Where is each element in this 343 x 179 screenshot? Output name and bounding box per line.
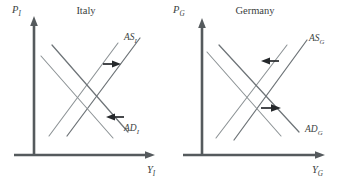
panel-italy-y-axis-label-sub: I xyxy=(17,10,21,18)
panel-italy-y-axis-label: PI xyxy=(11,4,21,18)
panel-germany-x-axis-arrowhead xyxy=(315,151,325,159)
panel-germany-title: Germany xyxy=(235,5,275,16)
panel-italy-x-axis-arrowhead xyxy=(145,151,155,159)
panel-germany-as-curve-original xyxy=(234,40,307,140)
panel-germany-y-axis-arrowhead xyxy=(198,18,206,28)
panel-italy-as-label-main: AS xyxy=(123,32,135,42)
panel-germany-as-label: ASG xyxy=(308,33,325,45)
panel-germany-y-axis-label-sub: G xyxy=(179,10,185,18)
panel-italy-ad-curve-shifted xyxy=(41,56,113,138)
panel-italy-ad-label-sub: I xyxy=(136,128,140,135)
panel-germany-as-label-main: AS xyxy=(308,33,320,43)
panel-germany: Germany PG YG ASG xyxy=(171,0,343,179)
panel-germany-ad-label-sub: G xyxy=(318,129,323,136)
panel-italy-x-axis-label: YI xyxy=(147,164,156,178)
panel-italy-ad-label-main: AD xyxy=(123,123,137,133)
panel-italy-x-axis-label-sub: I xyxy=(152,170,156,178)
panel-italy-as-curve-shifted xyxy=(67,38,140,136)
panel-italy: Italy PI YI ASI xyxy=(0,0,172,179)
panel-germany-ad-label-main: AD xyxy=(304,124,318,134)
panel-germany-ad-shift-arrow xyxy=(261,104,281,111)
panel-italy-ad-curve-original xyxy=(52,45,128,132)
panel-italy-title: Italy xyxy=(76,5,96,16)
panel-germany-as-curve-shifted xyxy=(216,45,287,138)
panel-germany-y-axis-label: PG xyxy=(172,4,185,18)
panel-germany-as-label-sub: G xyxy=(320,38,325,45)
panel-germany-ad-curve-original xyxy=(207,52,281,136)
panel-italy-ad-label: ADI xyxy=(123,123,140,135)
panel-italy-as-label: ASI xyxy=(123,32,138,44)
panel-italy-ad-shift-arrow xyxy=(106,114,124,121)
panel-germany-x-axis-label-sub: G xyxy=(318,170,324,178)
panel-germany-ad-label: ADG xyxy=(304,124,323,136)
panel-italy-y-axis-arrowhead xyxy=(30,16,38,26)
as-ad-two-country-figure: Italy PI YI ASI xyxy=(0,0,343,179)
panel-italy-as-curve-original xyxy=(49,43,118,136)
panel-germany-x-axis-label: YG xyxy=(312,164,324,178)
